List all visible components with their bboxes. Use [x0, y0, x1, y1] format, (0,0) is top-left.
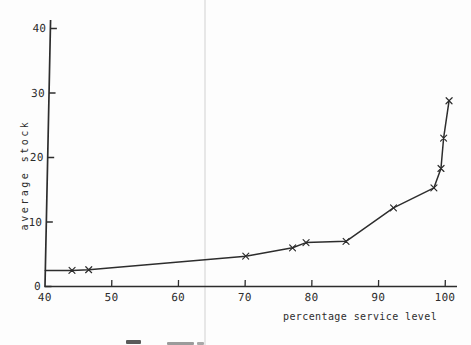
y-tick-label: 40: [32, 22, 46, 35]
y-tick-label: 20: [30, 151, 44, 164]
data-line: [45, 101, 449, 271]
x-tick-label: 50: [104, 291, 118, 304]
axes: [45, 20, 463, 287]
x-tick-label: 60: [171, 291, 185, 304]
data-point-marker: [431, 185, 437, 191]
x-tick-label: 80: [304, 291, 318, 304]
data-point-marker: [390, 205, 396, 211]
chart-svg: 010203040405060708090100: [0, 0, 471, 345]
y-tick-label: 10: [28, 216, 42, 229]
x-axis-title: percentage service level: [283, 311, 437, 322]
y-tick-label: 30: [31, 87, 45, 100]
y-axis-title: average stock: [19, 120, 30, 231]
x-tick-label: 100: [434, 291, 455, 304]
scanned-chart-figure: 010203040405060708090100 percentage serv…: [0, 0, 471, 345]
x-tick-label: 70: [238, 291, 252, 304]
cropped-caption-fragment: [126, 340, 141, 344]
x-tick-label: 40: [38, 291, 52, 304]
x-tick-label: 90: [371, 291, 385, 304]
